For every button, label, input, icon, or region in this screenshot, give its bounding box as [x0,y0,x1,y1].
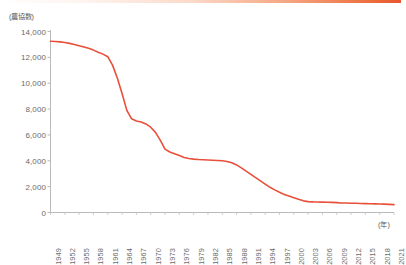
x-axis-tick-label: 2006 [325,248,334,265]
x-axis-tick-label: 1964 [125,248,134,265]
x-axis-tick-label: 2021 [397,248,406,265]
x-axis-tick-label: 1952 [68,248,77,265]
x-axis-tick-label: 1961 [111,248,120,265]
x-axis-tick-label: 2012 [354,248,363,265]
x-axis-tick-label: 2015 [368,248,377,265]
x-axis-tick-label: 2009 [340,248,349,265]
x-axis-tick-label: 1982 [211,248,220,265]
x-axis-tick-label: 1970 [154,248,163,265]
x-axis-tick-label: 1994 [268,248,277,265]
x-axis-tick-label: 2003 [311,248,320,265]
x-axis-tick-label: 1949 [54,248,63,265]
x-axis-unit-label: (年) [378,219,390,229]
x-axis-tick-label: 1955 [82,248,91,265]
x-axis-tick-labels: 1949195219551958196119641967197019731976… [0,216,401,253]
x-axis-tick-label: 1976 [182,248,191,265]
data-line-series [51,41,395,204]
x-axis-tick-label: 1958 [96,248,105,265]
x-axis-tick-label: 2000 [297,248,306,265]
x-axis-tick-label: 1967 [139,248,148,265]
x-axis-tick-label: 2018 [383,248,392,265]
x-axis-tick-label: 1979 [197,248,206,265]
x-axis-tick-label: 1985 [225,248,234,265]
axis-lines [51,30,395,213]
x-axis-tick-label: 1988 [240,248,249,265]
x-axis-tick-label: 1973 [168,248,177,265]
x-axis-tick-label: 1997 [283,248,292,265]
x-axis-tick-label: 1991 [254,248,263,265]
